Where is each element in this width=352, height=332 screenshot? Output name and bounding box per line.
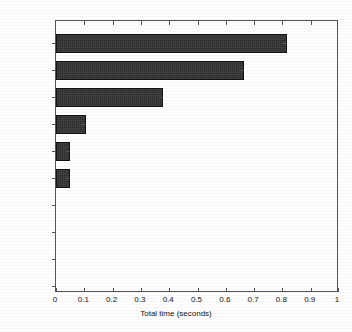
x-tick-top [311, 21, 312, 25]
x-tick [282, 288, 283, 292]
bar [56, 61, 244, 80]
x-tick-top [282, 21, 283, 25]
x-tick [141, 288, 142, 292]
bar-row: meshgrid [56, 169, 70, 188]
x-tick-top [141, 21, 142, 25]
bar [56, 34, 287, 53]
x-tick-label: 0.8 [266, 295, 296, 304]
x-tick [198, 288, 199, 292]
x-tick [226, 288, 227, 292]
y-tick-right [52, 205, 56, 206]
x-tick-label: 0.3 [125, 295, 155, 304]
y-tick [52, 178, 56, 179]
y-tick [52, 43, 56, 44]
y-tick-right [52, 259, 56, 260]
x-tick [311, 288, 312, 292]
y-tick-right [240, 70, 244, 71]
x-tick-top [198, 21, 199, 25]
x-tick [84, 288, 85, 292]
y-tick-right [66, 151, 70, 152]
x-tick [56, 288, 57, 292]
x-tick-label: 0.9 [295, 295, 325, 304]
x-tick-label: 0.1 [68, 295, 98, 304]
x-tick-top [169, 21, 170, 25]
y-tick [52, 70, 56, 71]
x-tick [169, 288, 170, 292]
x-tick-top [226, 21, 227, 25]
bar [56, 88, 163, 107]
y-tick-right [66, 178, 70, 179]
x-tick-label: 0.7 [238, 295, 268, 304]
y-tick-right [159, 97, 163, 98]
bar-row: membrane [56, 34, 287, 53]
y-tick [52, 151, 56, 152]
x-tick-top [113, 21, 114, 25]
x-tick-label: 0.6 [210, 295, 240, 304]
bar-row: besselmx [56, 88, 163, 107]
x-tick-label: 0 [40, 295, 70, 304]
x-tick [254, 288, 255, 292]
x-tick-top [254, 21, 255, 25]
x-tick-label: 0.5 [182, 295, 212, 304]
x-tick-label: 0.2 [97, 295, 127, 304]
y-tick [52, 124, 56, 125]
y-tick-right [52, 286, 56, 287]
x-tick-label: 1 [322, 295, 352, 304]
y-tick [52, 97, 56, 98]
x-tick [113, 288, 114, 292]
x-tick-top [84, 21, 85, 25]
x-axis-title: Total time (seconds) [0, 309, 352, 318]
y-tick-right [82, 124, 86, 125]
y-tick-right [52, 232, 56, 233]
x-tick [338, 288, 339, 292]
bar-row: besselj [56, 61, 244, 80]
figure-canvas: membrane besselj besselmx besschk log10 [0, 0, 352, 332]
x-tick-label: 0.4 [153, 295, 183, 304]
bar-row: log10 [56, 142, 70, 161]
y-tick-right [283, 43, 287, 44]
plot-area: membrane besselj besselmx besschk log10 [55, 20, 338, 292]
bar-row: besschk [56, 115, 86, 134]
